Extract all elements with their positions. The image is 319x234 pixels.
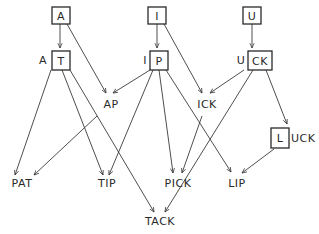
node-IP-box-label: P [155, 55, 162, 68]
edge-AP-PAT [34, 116, 97, 175]
node-PICK: PICK [165, 177, 192, 190]
node-UCK: U CK [237, 51, 272, 70]
node-PAT: PAT [12, 177, 33, 190]
node-LUCK: L UCK [271, 128, 316, 148]
node-AT-prefix: A [39, 54, 47, 67]
edge-AT-TACK [70, 70, 154, 212]
node-LUCK-suffix: UCK [291, 132, 316, 145]
edge-UCK-LUCK [266, 70, 287, 124]
node-A: A [52, 7, 70, 24]
node-I: I [148, 7, 166, 24]
edge-UCK-TACK [165, 70, 253, 212]
edge-LUCK-LIP [242, 149, 274, 173]
edge-AT-PAT [15, 70, 51, 175]
edge-IP-TIP [109, 70, 153, 175]
node-TIP: TIP [97, 177, 116, 190]
edge-AT-TIP [62, 70, 103, 175]
node-UCK-box-label: CK [252, 55, 268, 68]
node-AT: A T [39, 51, 70, 70]
edge-UCK-ICK [210, 70, 244, 93]
node-IP-prefix: I [143, 54, 147, 67]
node-LUCK-box-label: L [277, 132, 284, 145]
node-TACK: TACK [144, 215, 175, 228]
node-ICK: ICK [197, 98, 217, 111]
node-LIP: LIP [228, 177, 246, 190]
node-I-label: I [155, 10, 159, 23]
node-A-label: A [57, 10, 65, 23]
node-AT-box-label: T [56, 55, 64, 68]
node-U: U [243, 7, 261, 24]
edge-I-ICK [164, 24, 202, 93]
word-derivation-diagram: A I U A T I P U CK AP ICK L UCK PAT TIP … [0, 0, 319, 234]
node-UCK-prefix: U [237, 54, 246, 67]
node-AP: AP [103, 98, 118, 111]
node-IP: I P [143, 51, 168, 70]
edge-A-AP [67, 24, 106, 93]
edge-ICK-PICK [182, 116, 202, 173]
node-U-label: U [248, 10, 257, 23]
edge-IP-PICK [159, 70, 173, 173]
